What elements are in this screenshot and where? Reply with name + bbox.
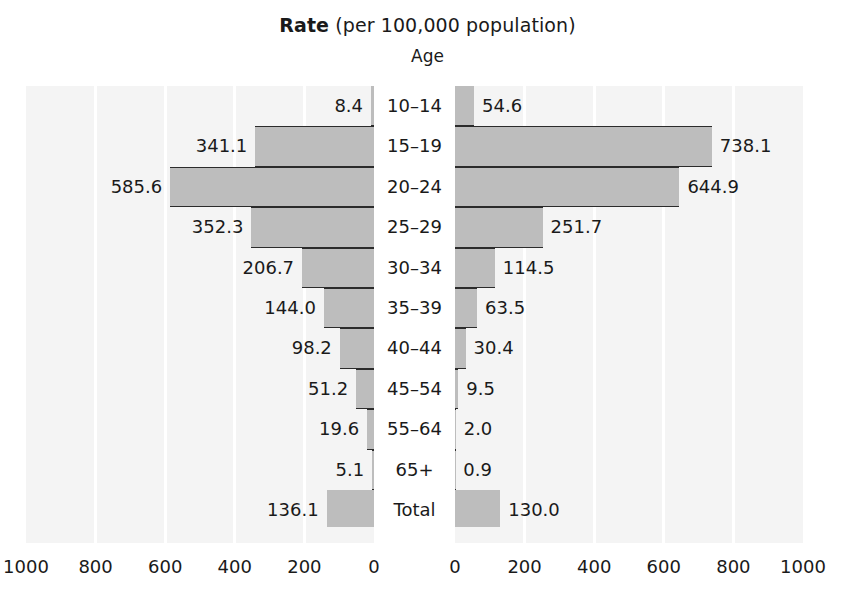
bar-value-label-right: 63.5: [485, 288, 525, 328]
bar-value-label-left: 136.1: [0, 490, 319, 530]
age-group-label: 35–39: [374, 288, 455, 328]
bar-right: [455, 288, 477, 328]
x-axis-tick-right: 1000: [780, 556, 826, 577]
age-group-label: 45–54: [374, 369, 455, 409]
page-title-rest: (per 100,000 population): [329, 14, 576, 36]
bar-right: [455, 409, 456, 449]
age-group-label: 65+: [374, 450, 455, 490]
bar-value-label-left: 341.1: [0, 126, 247, 166]
bar-left: [327, 490, 374, 527]
bar-value-label-left: 5.1: [0, 450, 364, 490]
x-axis-tick-left: 0: [368, 556, 379, 577]
x-axis-tick-left: 200: [287, 556, 321, 577]
bar-right: [455, 490, 500, 527]
bar-left: [324, 288, 374, 328]
x-axis-tick-right: 0: [449, 556, 460, 577]
bar-right: [455, 369, 458, 409]
bar-value-label-left: 585.6: [0, 167, 162, 207]
x-axis-tick-right: 600: [647, 556, 681, 577]
bar-value-label-right: 251.7: [551, 207, 603, 247]
bar-value-label-right: 54.6: [482, 86, 522, 126]
bar-right: [455, 207, 543, 247]
bar-value-label-right: 114.5: [503, 248, 555, 288]
bar-value-label-left: 352.3: [0, 207, 243, 247]
bar-value-label-right: 738.1: [720, 126, 772, 166]
age-group-label: 55–64: [374, 409, 455, 449]
x-axis-tick-left: 1000: [3, 556, 49, 577]
age-group-label: 30–34: [374, 248, 455, 288]
x-axis-tick-left: 800: [78, 556, 112, 577]
age-group-label: 40–44: [374, 328, 455, 368]
bar-value-label-left: 8.4: [0, 86, 363, 126]
bar-value-label-right: 0.9: [463, 450, 492, 490]
bar-right: [455, 248, 495, 288]
bar-value-label-left: 19.6: [0, 409, 359, 449]
x-axis-tick-right: 400: [577, 556, 611, 577]
bar-left: [356, 369, 374, 409]
page-title: Rate (per 100,000 population): [0, 14, 855, 36]
age-group-label: 15–19: [374, 126, 455, 166]
bar-right: [455, 126, 712, 166]
bar-value-label-left: 144.0: [0, 288, 316, 328]
bar-left: [255, 126, 374, 166]
x-axis-tick-right: 800: [716, 556, 750, 577]
bar-value-label-left: 51.2: [0, 369, 348, 409]
x-axis-tick-right: 200: [507, 556, 541, 577]
bar-left: [251, 207, 374, 247]
bar-value-label-right: 9.5: [466, 369, 495, 409]
x-axis-tick-left: 400: [218, 556, 252, 577]
bar-right: [455, 328, 466, 368]
bar-value-label-left: 206.7: [0, 248, 294, 288]
bar-right: [455, 450, 456, 490]
bar-value-label-left: 98.2: [0, 328, 332, 368]
age-group-label: 25–29: [374, 207, 455, 247]
bar-left: [340, 328, 374, 368]
bar-left: [302, 248, 374, 288]
age-group-label: 10–14: [374, 86, 455, 126]
bar-left: [367, 409, 374, 449]
page-title-bold: Rate: [279, 14, 329, 36]
axis-title-age: Age: [0, 46, 855, 66]
bar-left: [170, 167, 374, 207]
bar-value-label-right: 130.0: [508, 490, 560, 530]
bar-value-label-right: 2.0: [464, 409, 493, 449]
bar-right: [455, 86, 474, 126]
x-axis-tick-left: 600: [148, 556, 182, 577]
age-group-label: 20–24: [374, 167, 455, 207]
age-group-label: Total: [374, 490, 455, 530]
bar-value-label-right: 644.9: [687, 167, 739, 207]
bar-right: [455, 167, 679, 207]
bar-value-label-right: 30.4: [474, 328, 514, 368]
